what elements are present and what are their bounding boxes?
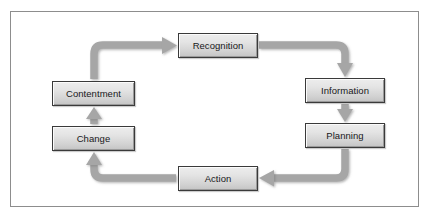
node-contentment-label: Contentment	[66, 89, 121, 99]
edge-recognition-to-information-line	[259, 45, 345, 64]
arrowhead-into-contentment	[86, 107, 102, 119]
cycle-diagram: Recognition Information Planning Action …	[0, 0, 429, 224]
edge-planning-to-action-line	[273, 149, 345, 178]
node-change-label: Change	[77, 134, 111, 144]
arrowhead-into-action	[259, 170, 274, 187]
node-recognition[interactable]: Recognition	[178, 33, 258, 58]
node-action-label: Action	[205, 174, 232, 184]
node-change[interactable]: Change	[52, 126, 135, 151]
node-contentment[interactable]: Contentment	[52, 81, 135, 106]
arrowhead-into-planning	[337, 109, 353, 122]
node-planning-label: Planning	[326, 131, 363, 141]
node-recognition-label: Recognition	[193, 41, 244, 51]
node-planning[interactable]: Planning	[305, 123, 385, 148]
node-information-label: Information	[321, 86, 369, 96]
edge-contentment-to-recognition-line	[94, 45, 163, 79]
edge-action-to-change-line	[94, 165, 176, 178]
node-information[interactable]: Information	[305, 78, 385, 103]
arrowhead-into-information	[337, 63, 353, 77]
node-action[interactable]: Action	[178, 166, 258, 191]
arrowhead-into-change	[86, 152, 102, 165]
arrowhead-into-recognition	[162, 37, 177, 54]
